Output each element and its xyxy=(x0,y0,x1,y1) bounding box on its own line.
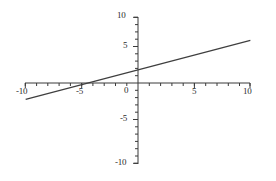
line-graph-figure: 10 5 0 -5 -10 -10 -5 5 10 xyxy=(0,0,276,181)
y-tick-label-neg10: -10 xyxy=(115,158,126,167)
x-tick-label-neg10: -10 xyxy=(16,87,27,96)
y-tick-label-neg5: -5 xyxy=(120,114,127,123)
y-tick-label-5: 5 xyxy=(123,41,127,50)
y-tick-label-0: 0 xyxy=(124,86,128,95)
x-tick-label-5: 5 xyxy=(192,87,196,96)
x-tick-label-10: 10 xyxy=(243,87,252,96)
x-tick-label-neg5: -5 xyxy=(76,87,83,96)
y-axis-ticks xyxy=(134,17,138,163)
y-tick-label-10: 10 xyxy=(117,11,126,20)
plot-area xyxy=(0,0,276,181)
